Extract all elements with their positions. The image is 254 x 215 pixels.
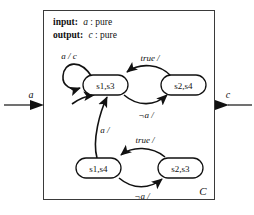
- output-port-arrowhead: [215, 100, 229, 110]
- transition-stub-path: [72, 95, 94, 104]
- transition-label-self-loop: a / c: [61, 51, 77, 61]
- state-label-s2s3: s2,s3: [171, 164, 190, 174]
- input-port-arrowhead: [30, 100, 44, 110]
- output-declaration-signal: c: [88, 30, 93, 40]
- state-label-s1s4: s1,s4: [89, 164, 108, 174]
- state-node-s1s3[interactable]: s1,s3: [83, 75, 128, 95]
- output-declaration: output: c : pure: [53, 30, 117, 40]
- transition-bottom-return-path: [121, 148, 165, 157]
- transition-top-return-path: [127, 66, 171, 76]
- input-declaration-keyword: input:: [53, 17, 78, 27]
- input-port-label: a: [29, 89, 34, 100]
- transition-top-forward-path: [124, 95, 167, 104]
- input-declaration-type: : pure: [90, 17, 112, 27]
- fsm-diagram-canvas: s1,s3 s2,s4 s1,s4 s2,s3 a / c true / ¬a …: [0, 0, 254, 215]
- transition-bottom-forward-path: [119, 178, 162, 187]
- state-node-s2s4[interactable]: s2,s4: [161, 75, 206, 95]
- state-label-s2s4: s2,s4: [174, 81, 193, 91]
- transition-label-top-forward: ¬a /: [138, 110, 155, 120]
- transition-label-top-return: true /: [140, 53, 161, 63]
- transition-label-bottom-forward: ¬a /: [134, 191, 151, 201]
- state-node-s2s3[interactable]: s2,s3: [158, 158, 203, 178]
- output-port-label: c: [226, 89, 231, 100]
- input-declaration: input: a : pure: [53, 17, 112, 27]
- transition-label-bottom-return: true /: [135, 135, 156, 145]
- output-declaration-keyword: output:: [53, 30, 83, 40]
- output-declaration-type: : pure: [95, 30, 117, 40]
- input-declaration-signal: a: [83, 17, 88, 27]
- state-machine-svg: s1,s3 s2,s4 s1,s4 s2,s3 a / c true / ¬a …: [0, 0, 254, 215]
- transition-label-up: a /: [100, 125, 111, 135]
- state-label-s1s3: s1,s3: [96, 81, 115, 91]
- actor-box-label: C: [199, 185, 207, 197]
- state-node-s1s4[interactable]: s1,s4: [76, 158, 121, 178]
